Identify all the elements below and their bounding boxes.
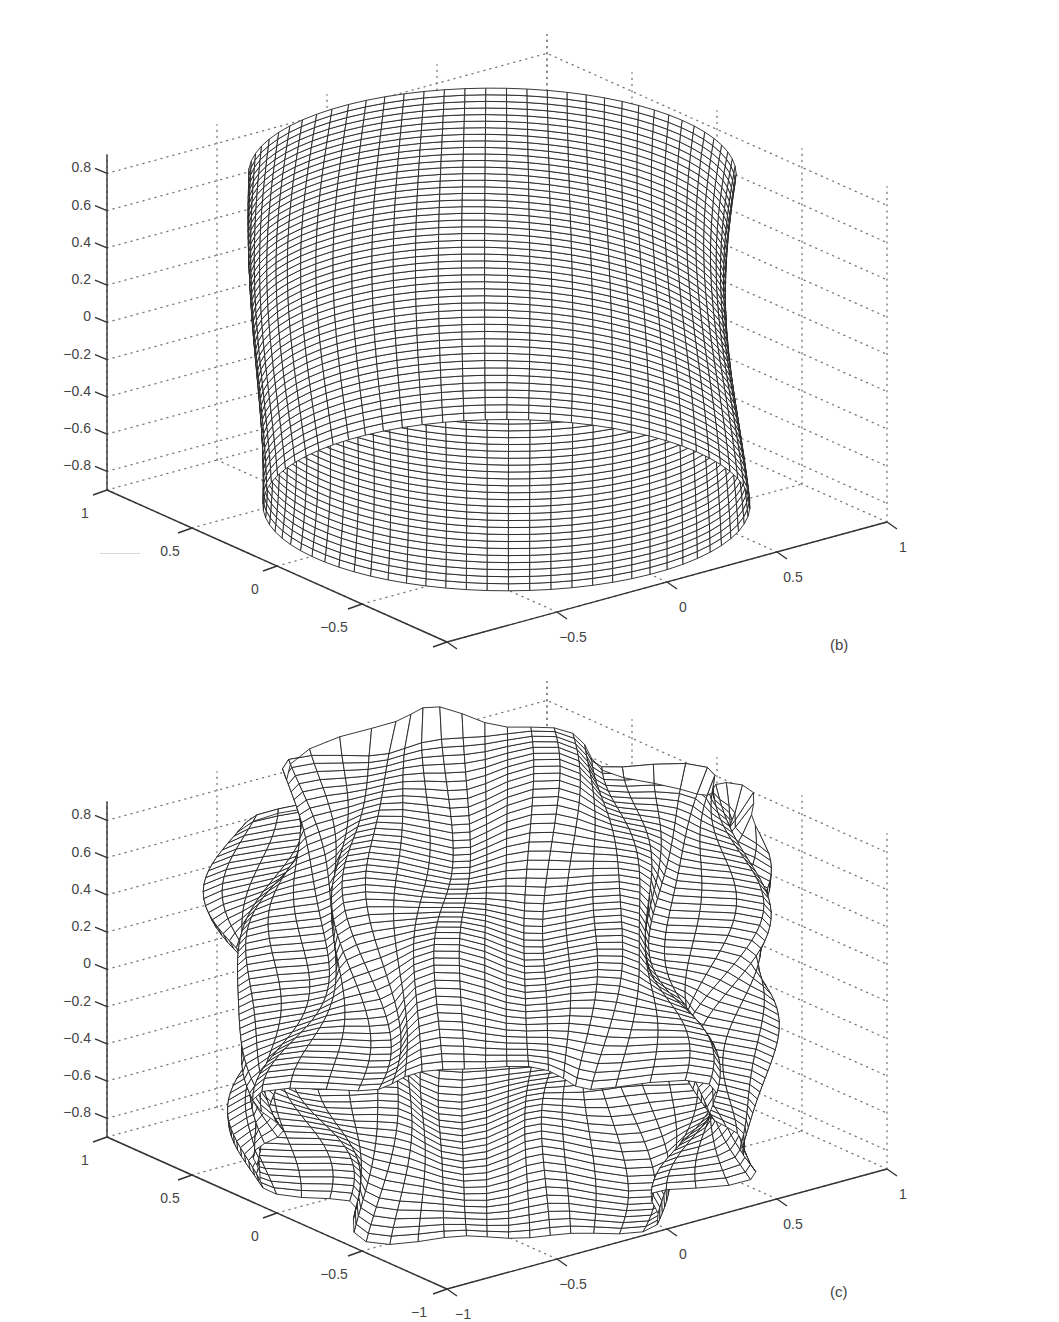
z-tick-label: −0.6 bbox=[63, 420, 91, 436]
x-tick-label: 0.5 bbox=[160, 1190, 180, 1206]
x-tick-label: 1 bbox=[81, 505, 89, 521]
grid-line bbox=[107, 700, 887, 852]
grid-line bbox=[107, 887, 887, 1039]
grid-line bbox=[107, 924, 887, 1076]
y-tick-label: 0 bbox=[679, 1246, 687, 1262]
panel-label-c: (c) bbox=[830, 1283, 848, 1300]
z-tick-label: −0.8 bbox=[63, 1104, 91, 1120]
x-tick-label: 0.5 bbox=[160, 543, 180, 559]
axis-lines: −0.8−0.6−0.4−0.200.20.40.60.810.50−0.5−1… bbox=[63, 802, 907, 1322]
grid-line bbox=[107, 998, 887, 1150]
x-tick-label: −0.5 bbox=[320, 619, 348, 635]
x-tick-label: −1 bbox=[411, 1304, 427, 1320]
z-tick-label: −0.4 bbox=[63, 1030, 91, 1046]
y-tick-label: −1 bbox=[455, 1306, 471, 1322]
z-tick-label: 0.6 bbox=[72, 844, 92, 860]
x-tick-label: 0 bbox=[251, 1228, 259, 1244]
x-axis bbox=[107, 1137, 447, 1289]
y-tick-label: 1 bbox=[899, 1186, 907, 1202]
y-tick-label: 0.5 bbox=[783, 569, 803, 585]
z-tick-label: 0.6 bbox=[72, 197, 92, 213]
grid-line bbox=[107, 738, 887, 890]
surface-plot-b: −0.8−0.6−0.4−0.200.20.40.60.810.50−0.5−1… bbox=[0, 0, 1059, 660]
x-tick-label: −1 bbox=[411, 657, 427, 660]
z-tick-label: 0.2 bbox=[72, 918, 92, 934]
z-tick-label: −0.6 bbox=[63, 1067, 91, 1083]
x-tick-label: −0.5 bbox=[320, 1266, 348, 1282]
z-tick-label: 0.2 bbox=[72, 271, 92, 287]
z-tick-label: −0.2 bbox=[63, 993, 91, 1009]
panel-label-b: (b) bbox=[830, 636, 848, 653]
mesh-surface bbox=[203, 707, 779, 1245]
z-tick-label: 0 bbox=[83, 308, 91, 324]
x-tick-label: 0 bbox=[251, 581, 259, 597]
z-tick-label: 0.8 bbox=[72, 159, 92, 175]
grid-line bbox=[107, 849, 887, 1001]
axes-group bbox=[107, 682, 887, 1289]
grid-line bbox=[107, 812, 887, 964]
x-tick-label: 1 bbox=[81, 1152, 89, 1168]
z-tick-label: −0.4 bbox=[63, 383, 91, 399]
y-tick-label: −0.5 bbox=[559, 1276, 587, 1292]
z-tick-label: 0.8 bbox=[72, 806, 92, 822]
z-tick-label: 0 bbox=[83, 955, 91, 971]
y-tick-label: −0.5 bbox=[559, 629, 587, 645]
grid-line bbox=[107, 961, 887, 1113]
grid-line bbox=[107, 775, 887, 927]
y-tick-label: 0.5 bbox=[783, 1216, 803, 1232]
y-axis bbox=[447, 1169, 887, 1289]
z-tick-label: 0.4 bbox=[72, 881, 92, 897]
z-tick-label: −0.8 bbox=[63, 457, 91, 473]
mesh-surface bbox=[248, 88, 750, 591]
plot-panel-b: −0.8−0.6−0.4−0.200.20.40.60.810.50−0.5−1… bbox=[0, 0, 1059, 660]
z-tick-label: 0.4 bbox=[72, 234, 92, 250]
y-tick-label: 1 bbox=[899, 539, 907, 555]
y-tick-label: 0 bbox=[679, 599, 687, 615]
y-tick-label: −1 bbox=[455, 659, 471, 660]
z-tick-label: −0.2 bbox=[63, 346, 91, 362]
scan-artifact-line bbox=[100, 553, 140, 554]
